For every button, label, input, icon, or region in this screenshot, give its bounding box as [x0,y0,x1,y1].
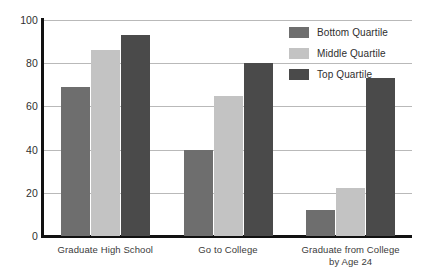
y-axis-tick-label: 100 [4,14,38,26]
y-axis-tick-label: 0 [4,230,38,242]
bar [244,63,273,236]
bar [214,96,243,236]
y-axis-tick-label: 80 [4,57,38,69]
bar [184,150,213,236]
bar-chart: 020406080100 Graduate High SchoolGo to C… [0,0,429,280]
bar [121,35,150,236]
x-axis-category-label: Graduate from Collegeby Age 24 [273,244,428,268]
bar [336,188,365,236]
legend-swatch-icon [289,48,309,59]
legend-item[interactable]: Top Quartile [289,64,424,85]
legend-item-label: Bottom Quartile [317,27,388,38]
y-axis-tick-label: 20 [4,187,38,199]
legend-item-label: Top Quartile [317,69,372,80]
legend-item[interactable]: Middle Quartile [289,43,424,64]
legend-swatch-icon [289,69,309,80]
legend-item[interactable]: Bottom Quartile [289,22,424,43]
bar [61,87,90,236]
legend-item-label: Middle Quartile [317,48,386,59]
chart-legend: Bottom QuartileMiddle QuartileTop Quarti… [289,22,424,85]
bar-group [61,20,150,236]
y-axis-tick-labels: 020406080100 [0,0,38,280]
bar [306,210,335,236]
y-axis-tick-label: 60 [4,100,38,112]
bar [366,78,395,236]
bar-group [184,20,273,236]
x-axis-category-label-line: Graduate from College [273,244,428,256]
legend-swatch-icon [289,27,309,38]
y-axis-tick-label: 40 [4,144,38,156]
x-axis-category-label-line: by Age 24 [273,256,428,268]
bar [91,50,120,236]
